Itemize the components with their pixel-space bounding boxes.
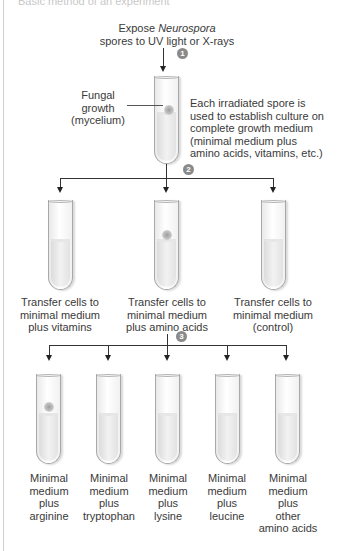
- tube-rim: [36, 374, 61, 377]
- label-line: plus amino acids: [113, 321, 221, 334]
- tube-rim: [261, 200, 286, 203]
- tube-medium: [51, 239, 70, 287]
- step-badge-3: 3: [176, 331, 187, 342]
- label-line: plus vitamins: [10, 321, 110, 334]
- label-arginine: Minimal medium plus arginine: [19, 472, 79, 522]
- fungal-growth: [44, 402, 54, 412]
- label-line: leucine: [197, 510, 257, 523]
- tube-rim: [48, 200, 73, 203]
- tube-control: [261, 200, 286, 290]
- label-line: amino acids: [254, 522, 322, 535]
- label-line: plus: [254, 497, 322, 510]
- step1-label: Expose Neurospora spores to UV light or …: [92, 22, 242, 47]
- left-border-rule: [3, 0, 4, 551]
- tube-rim: [275, 374, 300, 377]
- label-line: (control): [222, 321, 324, 334]
- tube-other-amino-acids: [275, 374, 300, 464]
- mycelium-label: Fungal growth (mycelium): [66, 89, 130, 127]
- label-line: lysine: [138, 510, 198, 523]
- tube-rim: [154, 76, 179, 79]
- label-line: arginine: [19, 510, 79, 523]
- arrow-down-icon: [283, 355, 289, 361]
- label-line: Minimal: [138, 472, 198, 485]
- label-control: Transfer cells to minimal medium (contro…: [222, 296, 324, 334]
- label-line: Transfer cells to: [113, 296, 221, 309]
- label-line: plus: [197, 497, 257, 510]
- label-lysine: Minimal medium plus lysine: [138, 472, 198, 522]
- mycelium-label-line: Fungal: [66, 89, 130, 102]
- description-line: complete growth medium: [190, 122, 337, 135]
- label-tryptophan: Minimal medium plus tryptophan: [78, 472, 140, 522]
- description-line: Each irradiated spore is: [190, 97, 337, 110]
- label-line: minimal medium: [10, 309, 110, 322]
- tube-lysine: [155, 374, 180, 464]
- label-line: plus: [19, 497, 79, 510]
- label-line: tryptophan: [78, 510, 140, 523]
- step1-label-organism: Neurospora: [158, 22, 215, 34]
- tube-medium: [264, 239, 283, 287]
- arrow-down-icon: [105, 355, 111, 361]
- label-line: minimal medium: [113, 309, 221, 322]
- label-leucine: Minimal medium plus leucine: [197, 472, 257, 522]
- tube-medium: [39, 413, 58, 461]
- step1-label-line2: spores to UV light or X-rays: [92, 35, 242, 48]
- mycelium-label-line: (mycelium): [66, 114, 130, 127]
- tube-rim: [96, 374, 121, 377]
- label-line: Transfer cells to: [10, 296, 110, 309]
- tube-tryptophan: [96, 374, 121, 464]
- cropped-header-text: Basic method of an experiment: [18, 0, 170, 7]
- tube-medium: [218, 413, 237, 461]
- tube-medium: [157, 112, 176, 161]
- tube-medium: [99, 413, 118, 461]
- step1-label-prefix: Expose: [118, 22, 158, 34]
- tube-rim: [215, 374, 240, 377]
- fungal-growth: [162, 230, 172, 240]
- step-badge-2: 2: [183, 164, 194, 175]
- description-line: amino acids, vitamins, etc.): [190, 147, 337, 160]
- mycelium-pointer-line: [127, 105, 163, 106]
- step-badge-1: 1: [177, 48, 188, 59]
- label-line: medium: [78, 485, 140, 498]
- tube-medium: [278, 413, 297, 461]
- arrow-down-icon: [270, 187, 276, 193]
- label-line: Minimal: [78, 472, 140, 485]
- label-line: medium: [138, 485, 198, 498]
- arrow-down-icon: [224, 355, 230, 361]
- parent-culture-tube: [154, 76, 179, 164]
- label-line: Minimal: [197, 472, 257, 485]
- label-line: plus: [78, 497, 140, 510]
- arrow-down-icon: [46, 355, 52, 361]
- arrow-down-icon: [164, 355, 170, 361]
- tube-leucine: [215, 374, 240, 464]
- arrow-down-icon: [160, 66, 166, 72]
- step1-arrow-line: [163, 48, 164, 67]
- label-line: minimal medium: [222, 309, 324, 322]
- label-other-amino-acids: Minimal medium plus other amino acids: [254, 472, 322, 535]
- label-line: other: [254, 510, 322, 523]
- mycelium-growth: [164, 105, 174, 115]
- step2-branch-line: [60, 178, 274, 179]
- tube-vitamins: [48, 200, 73, 290]
- description-line: used to establish culture on: [190, 110, 337, 123]
- tube-medium: [157, 239, 176, 287]
- label-line: Transfer cells to: [222, 296, 324, 309]
- label-line: medium: [19, 485, 79, 498]
- parent-culture-description: Each irradiated spore is used to establi…: [190, 97, 337, 160]
- label-line: medium: [254, 485, 322, 498]
- step3-branch-line: [49, 345, 287, 346]
- arrow-down-icon: [57, 187, 63, 193]
- tube-arginine: [36, 374, 61, 464]
- tube-medium: [158, 413, 177, 461]
- label-amino-acids: Transfer cells to minimal medium plus am…: [113, 296, 221, 334]
- tube-amino-acids: [154, 200, 179, 290]
- description-line: (minimal medium plus: [190, 135, 337, 148]
- arrow-down-icon: [163, 187, 169, 193]
- tube-rim: [155, 374, 180, 377]
- label-line: medium: [197, 485, 257, 498]
- tube-rim: [154, 200, 179, 203]
- label-line: plus: [138, 497, 198, 510]
- mycelium-label-line: growth: [66, 102, 130, 115]
- label-line: Minimal: [254, 472, 322, 485]
- label-line: Minimal: [19, 472, 79, 485]
- label-vitamins: Transfer cells to minimal medium plus vi…: [10, 296, 110, 334]
